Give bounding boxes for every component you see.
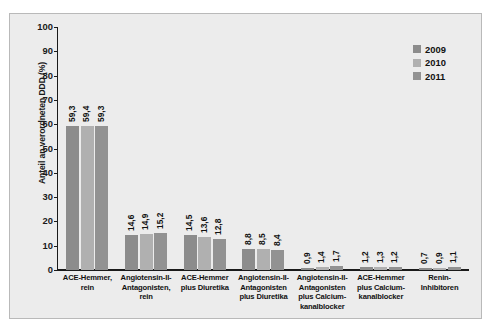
bar[interactable] [95, 126, 108, 270]
bar-column: 1,4 [316, 27, 329, 270]
bar-value-label: 0,9 [434, 252, 444, 264]
chart-figure: Anteil an verordneten DDD (%) 0102030405… [0, 0, 491, 331]
bar-column: 14,5 [184, 27, 197, 270]
legend-item[interactable]: 2011 [413, 70, 446, 82]
bar-group: 14,614,915,2 [117, 27, 176, 270]
bar[interactable] [81, 126, 94, 270]
bar[interactable] [271, 250, 284, 270]
bar-group-bars: 14,513,612,8 [175, 27, 234, 270]
bar-value-label: 12,8 [214, 219, 224, 235]
bar-value-label: 0,7 [419, 253, 429, 265]
legend-item[interactable]: 2009 [413, 43, 446, 55]
bar[interactable] [213, 239, 226, 270]
bar-column: 1,2 [360, 27, 373, 270]
y-axis-tick-label: 100 [37, 21, 53, 32]
y-axis-tick-mark [54, 197, 57, 198]
bar-column: 8,5 [257, 27, 270, 270]
bar[interactable] [154, 233, 167, 270]
bar[interactable] [360, 267, 373, 270]
bar[interactable] [419, 268, 432, 270]
bar-value-label: 14,5 [185, 214, 195, 230]
bar-column: 59,3 [66, 27, 79, 270]
y-axis-tick-label: 0 [48, 264, 53, 275]
bar[interactable] [184, 235, 197, 270]
bar-value-label: 59,4 [82, 105, 92, 121]
bar[interactable] [242, 249, 255, 270]
bar[interactable] [316, 267, 329, 270]
bar-value-label: 1,7 [331, 250, 341, 262]
x-axis-category-label: ACE-Hemmer,rein [58, 273, 117, 292]
bar-group-bars: 14,614,915,2 [117, 27, 176, 270]
x-axis-tick-labels: ACE-Hemmer,reinAngiotensin-II-Antagonist… [58, 273, 469, 317]
bar[interactable] [374, 267, 387, 270]
bar-column: 0,9 [301, 27, 314, 270]
bar-column: 12,8 [213, 27, 226, 270]
bar-column: 14,9 [140, 27, 153, 270]
bar-column: 1,1 [448, 27, 461, 270]
bar-column: 14,6 [125, 27, 138, 270]
bar-group-bars: 8,88,58,4 [234, 27, 293, 270]
y-axis-tick-label: 30 [43, 191, 53, 202]
y-axis-tick-label: 50 [43, 143, 53, 154]
y-axis-tick-label: 20 [43, 215, 53, 226]
bar[interactable] [125, 235, 138, 270]
y-axis-tick-mark [54, 149, 57, 150]
bar-value-label: 15,2 [155, 213, 165, 229]
bar[interactable] [198, 237, 211, 270]
bar-value-label: 1,1 [448, 252, 458, 264]
y-axis-tick-mark [54, 76, 57, 77]
x-axis-category-label: ACE-Hemmerplus Diuretika [175, 273, 234, 292]
bar-value-label: 8,4 [272, 234, 282, 246]
legend-item[interactable]: 2010 [413, 57, 446, 69]
bar-value-label: 8,5 [258, 234, 268, 246]
legend-label: 2009 [425, 44, 446, 55]
chart-legend: 200920102011 [413, 43, 446, 82]
bar-value-label: 14,9 [140, 213, 150, 229]
bar-column: 15,2 [154, 27, 167, 270]
bar-group-bars: 1,21,31,2 [352, 27, 411, 270]
y-axis-tick-label: 70 [43, 94, 53, 105]
bar-group-bars: 0,91,41,7 [293, 27, 352, 270]
bar-value-label: 1,3 [375, 251, 385, 263]
x-axis-category-label: Angiotensin-II-Antagonisten,rein [117, 273, 176, 302]
bar-column: 59,3 [95, 27, 108, 270]
bar-column: 8,8 [242, 27, 255, 270]
y-axis-tick-mark [54, 51, 57, 52]
legend-label: 2011 [425, 71, 445, 82]
bar[interactable] [257, 249, 270, 270]
y-axis-tick-mark [54, 100, 57, 101]
bar-value-label: 59,3 [67, 106, 77, 122]
y-axis-tick-mark [54, 221, 57, 222]
legend-swatch [413, 45, 421, 53]
bar-column: 59,4 [81, 27, 94, 270]
bar[interactable] [301, 268, 314, 270]
y-axis-tick-mark [54, 173, 57, 174]
bar-group: 1,21,31,2 [352, 27, 411, 270]
bar-group-bars: 59,359,459,3 [58, 27, 117, 270]
bar-value-label: 1,4 [316, 251, 326, 263]
bar[interactable] [140, 234, 153, 270]
y-axis-tick-mark [54, 124, 57, 125]
bar-group: 59,359,459,3 [58, 27, 117, 270]
x-axis-category-label: Renin-Inhibitoren [410, 273, 469, 292]
y-axis-tick-mark [54, 246, 57, 247]
bar[interactable] [330, 266, 343, 270]
bar[interactable] [448, 267, 461, 270]
y-axis-tick-mark [54, 27, 57, 28]
bar-column: 1,2 [389, 27, 402, 270]
bar-value-label: 1,2 [361, 251, 371, 263]
y-axis-tick-label: 80 [43, 70, 53, 81]
bar[interactable] [433, 268, 446, 270]
bar-column: 1,3 [374, 27, 387, 270]
bar-value-label: 14,6 [126, 214, 136, 230]
bar[interactable] [389, 267, 402, 270]
chart-panel: Anteil an verordneten DDD (%) 0102030405… [9, 13, 482, 319]
bar[interactable] [66, 126, 79, 270]
bar-group: 0,91,41,7 [293, 27, 352, 270]
y-axis-tick-label: 60 [43, 118, 53, 129]
bar-value-label: 8,8 [243, 233, 253, 245]
x-axis-category-label: Angiotensin-II-Antagonistenplus Calcium-… [293, 273, 352, 311]
y-axis-tick-label: 90 [43, 45, 53, 56]
bar-column: 1,7 [330, 27, 343, 270]
bar-value-label: 59,3 [96, 106, 106, 122]
